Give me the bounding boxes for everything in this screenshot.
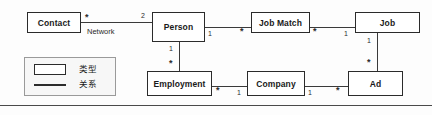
legend-row-type: 类型 [34, 64, 97, 75]
edge-person-employment [179, 42, 180, 71]
node-ad-label: Ad [370, 79, 382, 89]
mult-jobmatch-job-source: * [313, 27, 317, 36]
node-person-label: Person [164, 22, 193, 32]
node-contact-label: Contact [38, 18, 70, 28]
node-company[interactable]: Company [247, 71, 305, 96]
node-employment[interactable]: Employment [147, 71, 212, 96]
edge-person-jobmatch [205, 27, 251, 28]
mult-jobmatch-job-target: 1 [344, 30, 348, 37]
legend-row-relation: 关系 [34, 79, 97, 90]
legend-label-relation: 关系 [79, 79, 97, 90]
node-job-match-label: Job Match [259, 18, 302, 28]
er-diagram-canvas: Contact Person Job Match Job Employment … [0, 0, 432, 115]
node-job[interactable]: Job [355, 12, 420, 33]
edge-contact-person [81, 22, 152, 23]
node-ad[interactable]: Ad [348, 71, 403, 96]
mult-contact-person-source: * [85, 13, 89, 22]
node-contact[interactable]: Contact [27, 12, 81, 33]
mult-person-employment-target: * [169, 59, 173, 68]
edge-job-ad [377, 33, 378, 71]
node-company-label: Company [256, 79, 295, 89]
bottom-divider [0, 105, 432, 106]
line-swatch-icon [34, 84, 66, 86]
node-person[interactable]: Person [152, 12, 205, 42]
legend-panel: 类型 关系 [24, 57, 116, 96]
mult-job-ad-source: 1 [367, 37, 371, 44]
mult-contact-person-target: 2 [141, 12, 145, 19]
mult-employment-company-target: 1 [237, 89, 241, 96]
mult-company-ad-source: 1 [308, 89, 312, 96]
edge-label-network: Network [87, 28, 115, 36]
node-job-match[interactable]: Job Match [251, 12, 310, 33]
mult-employment-company-source: * [216, 86, 220, 95]
mult-person-employment-source: 1 [169, 45, 173, 52]
node-employment-label: Employment [153, 79, 205, 89]
legend-label-type: 类型 [79, 64, 97, 75]
mult-job-ad-target: * [367, 58, 371, 67]
edge-company-ad [305, 86, 348, 87]
node-job-label: Job [380, 18, 395, 28]
rectangle-swatch-icon [34, 64, 66, 75]
mult-person-jobmatch-target: * [240, 27, 244, 36]
mult-person-jobmatch-source: 1 [208, 30, 212, 37]
mult-company-ad-target: * [336, 86, 340, 95]
